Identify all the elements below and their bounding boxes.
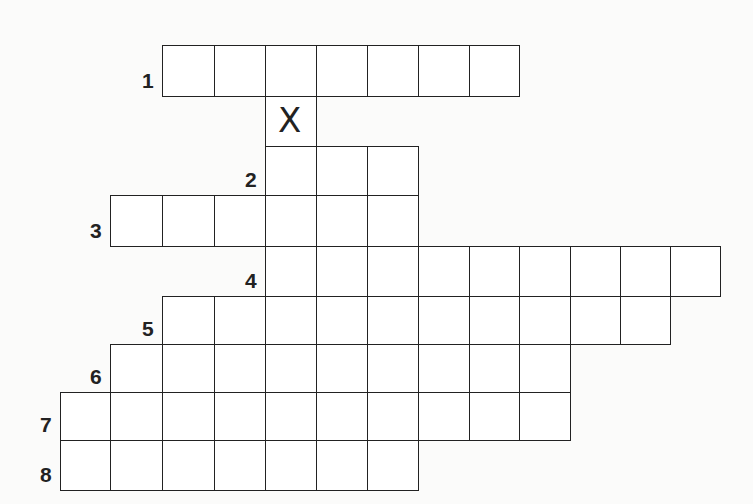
grid-cell[interactable] (316, 246, 368, 297)
grid-cell[interactable] (519, 246, 571, 297)
grid-cell[interactable] (265, 344, 317, 393)
grid-cell[interactable] (418, 296, 470, 345)
grid-cell[interactable] (316, 45, 368, 97)
grid-cell[interactable] (469, 344, 520, 393)
x-mark-icon: X (278, 103, 301, 137)
row-number-label: 4 (245, 270, 257, 291)
grid-cell[interactable] (265, 195, 317, 247)
grid-cell[interactable] (60, 440, 111, 491)
grid-cell[interactable] (469, 296, 520, 345)
grid-cell[interactable] (265, 392, 317, 441)
row-number-label: 6 (90, 366, 102, 387)
grid-cell[interactable] (367, 195, 419, 247)
grid-cell[interactable] (570, 246, 621, 297)
grid-cell[interactable] (316, 296, 368, 345)
grid-cell[interactable] (214, 195, 266, 247)
row-number-label: 3 (90, 220, 102, 241)
grid-cell[interactable] (367, 45, 419, 97)
row-number-label: 5 (142, 318, 154, 339)
grid-cell[interactable] (519, 296, 571, 345)
grid-cell[interactable] (265, 296, 317, 345)
grid-cell[interactable] (620, 296, 671, 345)
grid-cell[interactable] (316, 146, 368, 196)
row-number-label: 8 (40, 464, 52, 485)
grid-cell[interactable] (162, 195, 215, 247)
grid-cell[interactable] (316, 344, 368, 393)
grid-cell[interactable] (265, 45, 317, 97)
row-number-label: 1 (142, 70, 154, 91)
grid-cell[interactable] (418, 246, 470, 297)
grid-cell[interactable] (367, 296, 419, 345)
grid-cell[interactable] (110, 440, 163, 491)
grid-cell[interactable] (316, 440, 368, 491)
grid-cell[interactable] (214, 45, 266, 97)
grid-cell[interactable] (265, 146, 317, 196)
grid-cell[interactable] (162, 392, 215, 441)
grid-cell[interactable] (316, 195, 368, 247)
grid-cell[interactable] (214, 344, 266, 393)
grid-cell[interactable] (110, 392, 163, 441)
grid-cell[interactable] (469, 246, 520, 297)
grid-cell[interactable] (418, 344, 470, 393)
grid-cell[interactable] (519, 344, 571, 393)
grid-cell[interactable] (418, 392, 470, 441)
grid-cell[interactable] (670, 246, 721, 297)
grid-cell[interactable] (367, 344, 419, 393)
grid-cell[interactable] (60, 392, 111, 441)
grid-cell[interactable] (110, 344, 163, 393)
grid-cell[interactable] (214, 392, 266, 441)
grid-cell[interactable] (162, 344, 215, 393)
row-number-label: 2 (245, 169, 257, 190)
row-number-label: 7 (40, 414, 52, 435)
grid-cell[interactable] (162, 440, 215, 491)
grid-cell[interactable] (367, 146, 419, 196)
grid-cell[interactable] (570, 296, 621, 345)
grid-cell[interactable] (214, 296, 266, 345)
grid-cell[interactable] (265, 440, 317, 491)
grid-cell[interactable] (469, 392, 520, 441)
grid-cell[interactable] (214, 440, 266, 491)
grid-cell[interactable] (162, 45, 215, 97)
grid-cell[interactable] (620, 246, 671, 297)
grid-cell[interactable] (469, 45, 520, 97)
grid-cell[interactable] (110, 195, 163, 247)
grid-cell[interactable] (418, 45, 470, 97)
grid-cell[interactable] (367, 246, 419, 297)
grid-cell[interactable] (265, 246, 317, 297)
grid-cell[interactable] (367, 440, 419, 491)
grid-cell[interactable] (316, 392, 368, 441)
grid-cell[interactable] (519, 392, 571, 441)
grid-cell[interactable] (367, 392, 419, 441)
grid-cell[interactable] (162, 296, 215, 345)
